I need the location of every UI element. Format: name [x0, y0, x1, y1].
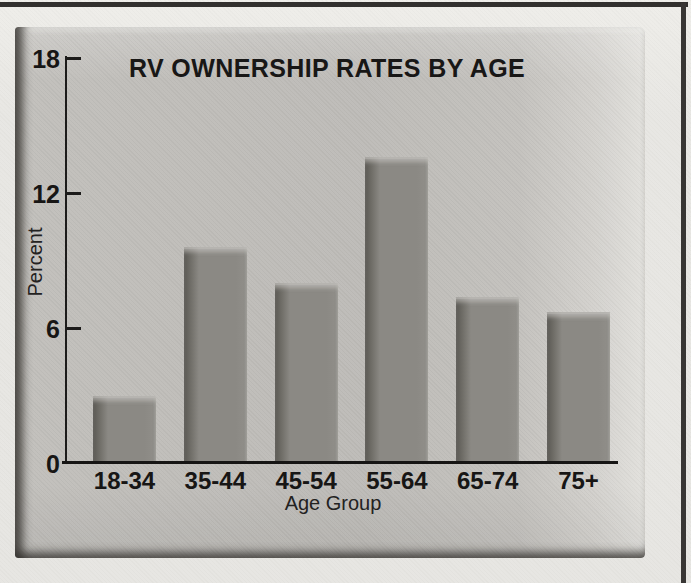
- bar-18-34: [93, 396, 156, 464]
- chart-title: RV OWNERSHIP RATES BY AGE: [129, 54, 525, 83]
- y-axis-line: [65, 56, 67, 463]
- y-tick-18: [65, 57, 81, 60]
- y-tick-6: [65, 327, 81, 330]
- x-tick-label-75+: 75+: [558, 467, 599, 495]
- bar-45-54: [275, 283, 338, 463]
- y-tick-label-12: 12: [18, 182, 60, 207]
- x-tick-label-65-74: 65-74: [457, 467, 518, 495]
- scanned-chart-photo: RV OWNERSHIP RATES BY AGE Percent Age Gr…: [0, 0, 691, 583]
- x-tick-label-55-64: 55-64: [366, 467, 427, 495]
- x-tick-label-35-44: 35-44: [185, 467, 246, 495]
- y-axis-label: Percent: [24, 228, 47, 297]
- x-axis-label: Age Group: [285, 492, 382, 515]
- x-tick-label-18-34: 18-34: [94, 467, 155, 495]
- bar-35-44: [184, 247, 247, 463]
- y-tick-label-0: 0: [18, 452, 60, 477]
- bar-65-74: [456, 297, 519, 464]
- chart-area: RV OWNERSHIP RATES BY AGE Percent Age Gr…: [0, 0, 691, 583]
- x-axis-line: [62, 461, 618, 464]
- bar-75+: [547, 312, 610, 463]
- x-tick-label-45-54: 45-54: [275, 467, 336, 495]
- bar-55-64: [365, 157, 428, 463]
- y-tick-label-6: 6: [18, 317, 60, 342]
- y-tick-label-18: 18: [18, 47, 60, 72]
- y-tick-12: [65, 192, 81, 195]
